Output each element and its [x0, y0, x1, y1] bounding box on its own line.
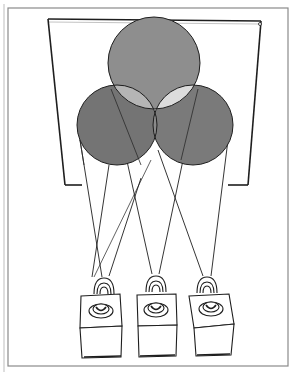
projector-center — [137, 276, 177, 357]
color-mixing-diagram — [0, 0, 293, 374]
projector-right — [189, 277, 234, 356]
color-circles — [77, 17, 233, 165]
projectors — [80, 276, 234, 358]
projector-left — [80, 278, 122, 358]
